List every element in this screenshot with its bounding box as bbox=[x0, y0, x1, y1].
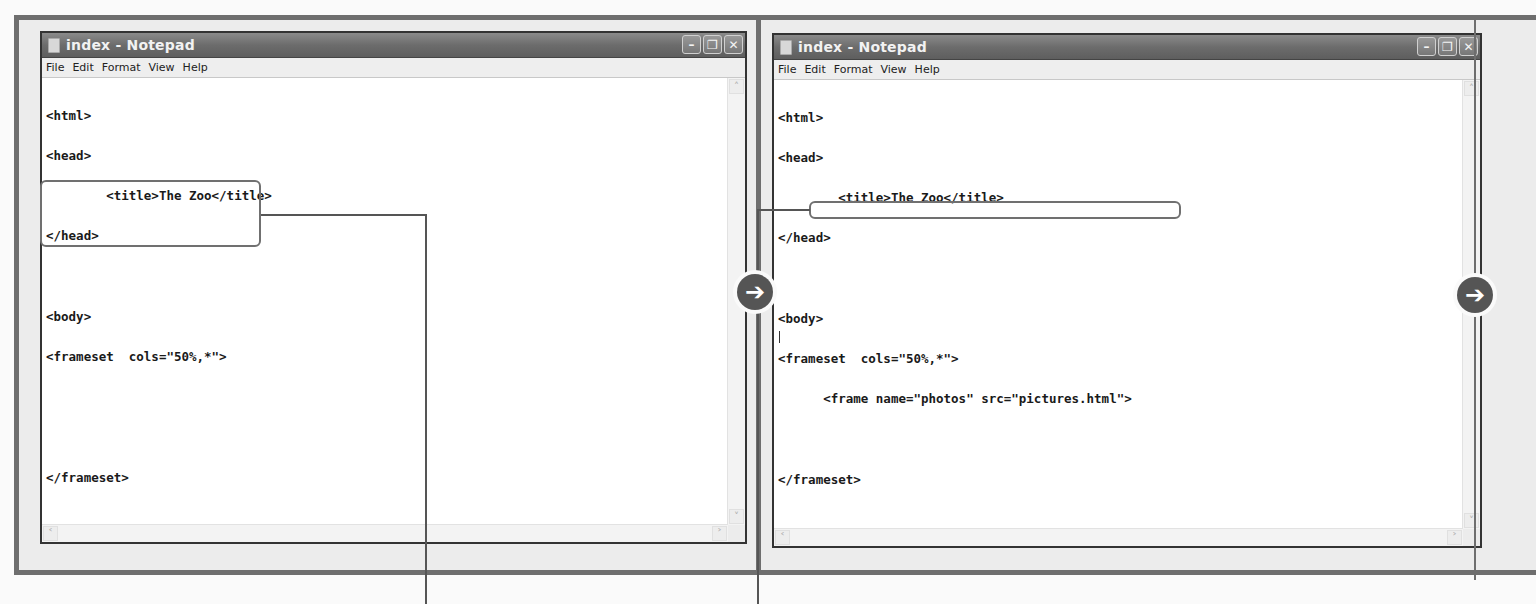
notepad-window-right: index - Notepad – ❐ ✕ File Edit Format V… bbox=[772, 33, 1482, 548]
menu-format[interactable]: Format bbox=[102, 61, 141, 74]
menu-bar: File Edit Format View Help bbox=[42, 58, 745, 78]
menu-view[interactable]: View bbox=[881, 63, 907, 76]
code-line: <frame name="photos" src="pictures.html"… bbox=[778, 392, 1463, 405]
scroll-down-icon[interactable]: ˅ bbox=[729, 509, 744, 524]
menu-format[interactable]: Format bbox=[834, 63, 873, 76]
horizontal-scrollbar[interactable]: ˂ ˃ bbox=[774, 528, 1463, 546]
arrow-right-icon: ➔ bbox=[745, 280, 765, 304]
callout-line bbox=[261, 214, 427, 216]
title-bar[interactable]: index - Notepad – ❐ ✕ bbox=[774, 35, 1480, 60]
text-editor[interactable]: <html> <head> <title>The Zoo</title> </h… bbox=[42, 78, 728, 525]
scroll-up-icon[interactable]: ˄ bbox=[729, 79, 744, 94]
arrow-right-icon: ➔ bbox=[1465, 283, 1485, 307]
code-line bbox=[778, 272, 1463, 285]
code-line bbox=[778, 432, 1463, 445]
window-title: index - Notepad bbox=[66, 37, 195, 53]
callout-line bbox=[425, 214, 427, 604]
window-title: index - Notepad bbox=[798, 39, 927, 55]
menu-edit[interactable]: Edit bbox=[72, 61, 93, 74]
notepad-icon bbox=[780, 40, 792, 55]
code-line: <head> bbox=[46, 149, 728, 162]
scroll-corner bbox=[1463, 529, 1480, 546]
next-step-arrow: ➔ bbox=[733, 270, 777, 314]
code-line: </head> bbox=[778, 231, 1463, 244]
minimize-button[interactable]: – bbox=[682, 35, 701, 54]
scroll-down-icon[interactable]: ˅ bbox=[1464, 513, 1479, 528]
restore-button[interactable]: ❐ bbox=[703, 35, 722, 54]
horizontal-scrollbar[interactable]: ˂ ˃ bbox=[42, 524, 728, 542]
scroll-left-icon[interactable]: ˂ bbox=[775, 530, 790, 545]
menu-view[interactable]: View bbox=[149, 61, 175, 74]
minimize-button[interactable]: – bbox=[1417, 37, 1436, 56]
menu-file[interactable]: File bbox=[46, 61, 64, 74]
next-step-arrow: ➔ bbox=[1453, 273, 1497, 317]
close-button[interactable]: ✕ bbox=[724, 35, 743, 54]
text-editor[interactable]: <html> <head> <title>The Zoo</title> </h… bbox=[774, 80, 1463, 529]
menu-file[interactable]: File bbox=[778, 63, 796, 76]
scroll-corner bbox=[728, 525, 745, 542]
text-caret bbox=[779, 331, 780, 343]
code-line: <frameset cols="50%,*"> bbox=[46, 350, 728, 363]
notepad-window-left: index - Notepad – ❐ ✕ File Edit Format V… bbox=[40, 31, 747, 544]
code-line: </frameset> bbox=[778, 473, 1463, 486]
code-line: </frameset> bbox=[46, 471, 728, 484]
code-line: <frameset cols="50%,*"> bbox=[778, 352, 1463, 365]
frame-highlight bbox=[809, 201, 1181, 219]
menu-help[interactable]: Help bbox=[915, 63, 940, 76]
title-bar[interactable]: index - Notepad – ❐ ✕ bbox=[42, 33, 745, 58]
code-line: <body> bbox=[778, 312, 1463, 325]
frameset-highlight bbox=[40, 180, 261, 247]
callout-line bbox=[758, 209, 810, 211]
callout-line bbox=[757, 209, 759, 604]
code-line bbox=[778, 513, 1463, 526]
menu-bar: File Edit Format View Help bbox=[774, 60, 1480, 80]
scroll-left-icon[interactable]: ˂ bbox=[43, 526, 58, 541]
scroll-right-icon[interactable]: ˃ bbox=[712, 526, 727, 541]
scroll-up-icon[interactable]: ˄ bbox=[1464, 81, 1479, 96]
notepad-icon bbox=[48, 38, 60, 53]
scroll-right-icon[interactable]: ˃ bbox=[1447, 530, 1462, 545]
menu-help[interactable]: Help bbox=[183, 61, 208, 74]
menu-edit[interactable]: Edit bbox=[804, 63, 825, 76]
code-line bbox=[46, 511, 728, 524]
code-line: <body> bbox=[46, 310, 728, 323]
code-line bbox=[46, 430, 728, 443]
code-line: <html> bbox=[778, 111, 1463, 124]
code-line: <head> bbox=[778, 151, 1463, 164]
code-line: <html> bbox=[46, 109, 728, 122]
code-line bbox=[46, 390, 728, 403]
code-line bbox=[46, 270, 728, 283]
restore-button[interactable]: ❐ bbox=[1438, 37, 1457, 56]
